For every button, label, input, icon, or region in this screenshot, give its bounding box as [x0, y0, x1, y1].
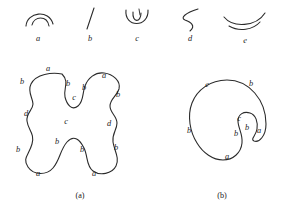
primitive-symbol-c: [126, 9, 148, 24]
curve-label-b2: b: [66, 79, 70, 88]
panel-b-curve: [190, 80, 266, 160]
primitive-label-c: c: [135, 34, 139, 43]
s-curve-path: [183, 9, 198, 31]
curve-label-b5: b: [55, 137, 59, 146]
primitive-symbol-e: [224, 13, 265, 29]
curve-label-a1: a: [46, 64, 50, 73]
primitive-symbol-d: [183, 9, 198, 31]
curve-label-b11: b: [245, 123, 249, 132]
curve-label-a4: a: [92, 169, 96, 178]
primitive-label-d: d: [188, 34, 193, 43]
arc-inner-path: [32, 18, 49, 26]
panel-a-caption: (a): [75, 191, 84, 200]
cup-tick-path: [139, 9, 140, 15]
curve-label-a2: a: [102, 71, 106, 80]
curve-label-c3: c: [237, 114, 241, 123]
primitive-symbol-a: [26, 14, 53, 26]
curve-label-b4: b: [116, 90, 120, 99]
curve-label-a5: a: [257, 126, 261, 135]
cup-outer-path: [126, 10, 148, 24]
curve-label-d2: d: [107, 119, 112, 128]
curve-label-b1: b: [20, 77, 24, 86]
curve-label-a6: a: [225, 152, 229, 161]
panel-b-labels: e b b c b b a a: [187, 79, 261, 161]
figure-svg: a b c d e a b b b c a: [0, 0, 293, 210]
hook-closed-path: [190, 80, 266, 160]
curve-label-c1: c: [72, 93, 76, 102]
curve-label-b8: b: [114, 143, 118, 152]
panel-b-caption: (b): [217, 191, 227, 200]
curve-label-b9: b: [249, 79, 253, 88]
panel-a-curve: [26, 73, 120, 174]
curve-label-a3: a: [36, 169, 40, 178]
curve-label-b6: b: [16, 145, 20, 154]
four-lobed-closed-path: [26, 73, 120, 174]
figure-container: a b c d e a b b b c a: [0, 0, 293, 210]
curve-label-e1: e: [205, 80, 209, 89]
curve-label-b7: b: [80, 145, 84, 154]
primitive-label-e: e: [243, 36, 247, 45]
curve-label-c2: c: [64, 117, 68, 126]
panel-a-labels: a b b b c a b d d c b b b b a a: [16, 64, 120, 178]
primitive-label-b: b: [88, 34, 92, 43]
curve-label-b3: b: [82, 83, 86, 92]
primitive-label-a: a: [36, 34, 40, 43]
curve-label-b10: b: [187, 126, 191, 135]
primitive-symbol-b: [87, 8, 94, 29]
curve-label-b12: b: [234, 129, 238, 138]
line-path: [87, 8, 94, 29]
